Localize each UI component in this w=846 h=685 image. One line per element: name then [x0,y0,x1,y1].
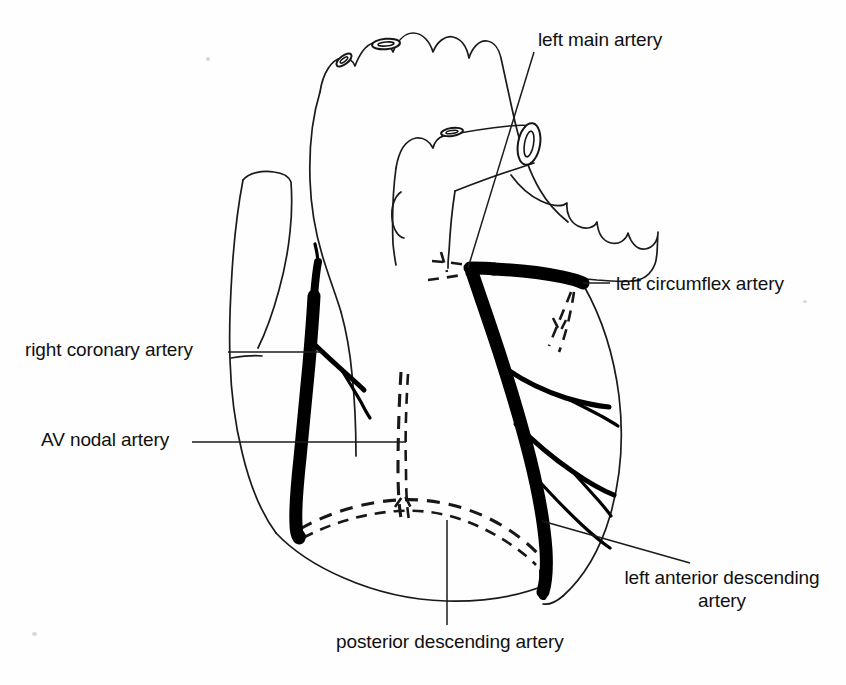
left-circumflex-artery-vessel [494,269,583,283]
right-atrium-lower-border [231,356,262,358]
hidden-vessels-group [300,252,574,565]
right-coronary-artery-proximal [314,262,318,296]
scan-speck-2 [206,57,210,61]
scan-speck-3 [803,300,807,303]
left-carotid-stump-lumen [378,41,394,46]
pulmonary-trunk-descending [393,168,396,265]
av-nodal-artery-hidden [398,372,401,518]
superior-vena-cava-outline [243,171,292,348]
posterior-descending-artery-hidden-parallel [303,511,536,565]
leader-lines-group [192,52,690,625]
rvot-right-border [448,191,455,268]
leader-left-anterior-descending-artery [542,521,690,563]
label-lad-line-2: artery [600,589,844,612]
right-coronary-artery-vessel [296,296,314,538]
pulmonary-artery-outline [396,136,444,168]
label-left-main-artery: left main artery [538,28,662,51]
coronary-artery-diagram: left main artery left circumflex artery … [0,0,846,685]
label-av-nodal-artery: AV nodal artery [41,428,169,451]
left-anterior-descending-distal [543,572,544,596]
posterior-descending-artery-hidden [300,500,540,556]
label-lad-line-1: left anterior descending [600,566,844,589]
label-right-coronary-artery: right coronary artery [25,338,193,361]
pda-av-nodal-junction-tick [395,494,411,508]
label-left-anterior-descending-artery: left anterior descending artery [600,566,844,612]
label-posterior-descending-artery: posterior descending artery [336,630,564,653]
scan-speck-1 [32,632,37,636]
left-atrial-appendage-outline [511,175,658,281]
acute-marginal-branch [310,340,364,390]
left-ventricle-lateral-border [563,286,621,596]
label-left-circumflex-artery: left circumflex artery [616,272,784,295]
